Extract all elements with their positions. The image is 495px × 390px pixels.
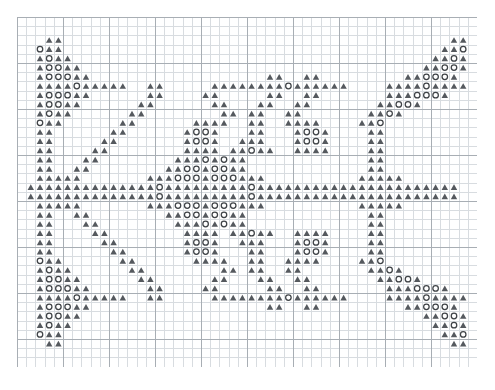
chart-page (0, 0, 495, 390)
stitch-chart-canvas (17, 17, 477, 367)
stitch-chart (17, 17, 477, 367)
